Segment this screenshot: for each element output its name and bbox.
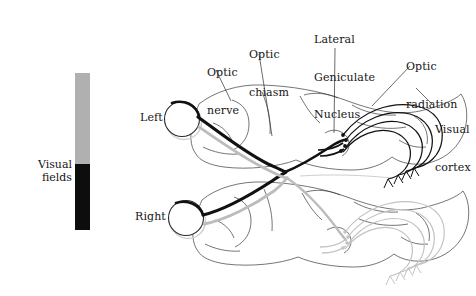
- left-eye: [165, 102, 202, 140]
- radiation-fiber-3: [346, 122, 422, 175]
- light-optic-tract: [287, 178, 346, 240]
- lgn-terminals-light: [320, 230, 350, 253]
- leader-optic-radiation: [372, 66, 410, 106]
- leader-lgn: [334, 48, 335, 133]
- optic-chiasm-node: [283, 170, 287, 174]
- leader-optic-nerve: [216, 70, 231, 101]
- brain-diagram-svg: [0, 0, 476, 296]
- visual-pathway-figure: Visual fields Optic nerve Optic chiasm L…: [0, 0, 476, 296]
- left-eye-light-fiber: [199, 127, 286, 178]
- left-optic-nerve: [198, 117, 285, 172]
- right-eye: [169, 201, 206, 239]
- right-eye-light-fiber: [204, 178, 287, 224]
- optic-radiation-light: [345, 202, 444, 285]
- leader-visual-cortex: [416, 88, 432, 104]
- radiation-arrowheads-light: [386, 265, 421, 285]
- left-optic-tract: [285, 140, 344, 172]
